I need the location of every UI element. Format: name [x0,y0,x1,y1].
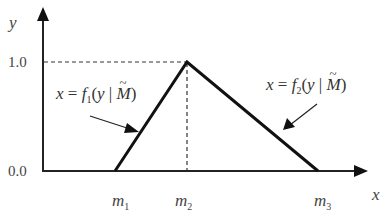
left-formula-var: y [97,84,105,103]
right-formula-pointer-arrowhead-icon [283,118,295,130]
diagram-canvas: y x 1.0 0.0 m1 m2 m3 x = f1(y | M) x = f… [0,0,390,218]
left-formula: x = f1(y | M) [56,85,136,105]
y-axis-label: y [9,14,17,31]
m1-base: m [112,191,124,210]
x-axis-arrowhead-icon [354,165,368,177]
m2-sub: 2 [187,201,192,212]
left-formula-pointer-arrowhead-icon [124,123,139,133]
right-formula-eq: = [274,75,292,94]
right-formula-pointer-line [290,104,317,125]
m1-label: m1 [112,192,129,212]
right-formula-bar: | [315,75,327,94]
right-formula-var: y [307,75,315,94]
m3-sub: 3 [326,201,331,212]
m2-base: m [175,191,187,210]
m3-label: m3 [314,192,331,212]
y-axis-arrowhead-icon [37,7,49,21]
right-formula: x = f2(y | M) [266,76,346,96]
x-axis-label: x [372,186,380,203]
left-formula-lhs: x [56,84,64,103]
y-tick-0: 0.0 [8,164,27,179]
y-tick-1: 1.0 [8,55,27,70]
left-formula-bar: | [105,84,117,103]
m2-label: m2 [175,192,192,212]
left-formula-param: M [117,85,131,102]
left-formula-pointer-line [90,116,130,129]
right-formula-lhs: x [266,75,274,94]
m3-base: m [314,191,326,210]
left-formula-close: ) [131,84,137,103]
right-formula-close: ) [341,75,347,94]
left-formula-eq: = [64,84,82,103]
m1-sub: 1 [124,201,129,212]
right-formula-param: M [327,76,341,93]
diagram-graphics [0,0,390,218]
